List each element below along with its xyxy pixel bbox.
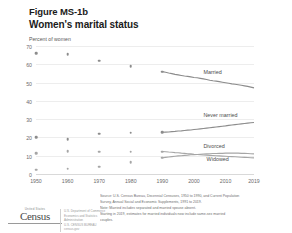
logo-wordmark: Census [8, 211, 62, 222]
logo-agency-text: U.S. Department of Commerce Economics an… [60, 209, 108, 232]
data-point [161, 150, 164, 153]
y-tick-label: 20 [18, 135, 32, 141]
data-point [161, 70, 164, 73]
census-logo: United States Census [8, 207, 62, 224]
data-point [161, 156, 164, 159]
x-tick-label: 2019 [241, 178, 267, 184]
y-tick-label: 40 [18, 98, 32, 104]
data-point [161, 131, 164, 134]
x-tick-label: 2000 [181, 178, 207, 184]
source-note: Source: U.S. Census Bureau, Decennial Ce… [100, 193, 288, 223]
agency-line: Economics and Statistics Administration [64, 214, 108, 223]
series-label: Divorced [203, 143, 224, 149]
data-point [129, 161, 132, 164]
series-lines [36, 46, 254, 174]
series-label: Widowed [207, 156, 229, 162]
data-point [35, 168, 38, 171]
y-tick-label: 0 [18, 172, 32, 178]
x-tick-label: 1950 [23, 178, 49, 184]
series-label: Married [203, 69, 221, 75]
agency-line: U.S. Department of Commerce [64, 209, 108, 214]
series-line [162, 122, 254, 132]
x-tick-label: 1970 [86, 178, 112, 184]
logo-rule [8, 223, 62, 224]
data-point [98, 150, 101, 153]
x-tick-label: 1960 [55, 178, 81, 184]
figure-container: Figure MS-1b Women's marital status Perc… [0, 0, 292, 233]
x-tick-label: 2010 [213, 178, 239, 184]
note-line: couples. [100, 217, 288, 223]
data-point [129, 65, 132, 68]
data-point [35, 52, 38, 55]
data-point [35, 136, 38, 139]
data-point [66, 138, 69, 141]
data-point [35, 152, 38, 155]
data-point [98, 132, 101, 135]
data-point [98, 59, 101, 62]
y-tick-label: 70 [18, 44, 32, 50]
data-point [66, 167, 69, 170]
y-tick-label: 10 [18, 153, 32, 159]
y-tick-label: 50 [18, 80, 32, 86]
plot-area: MarriedNever marriedDivorcedWidowed [36, 46, 254, 174]
agency-line: census.gov [64, 227, 108, 232]
page-title: Women's marital status [29, 19, 138, 30]
data-point [129, 151, 132, 154]
data-point [129, 132, 132, 135]
x-tick-label: 1980 [118, 178, 144, 184]
data-point [66, 150, 69, 153]
y-axis-title: Percent of women [29, 36, 71, 42]
x-tick-label: 1990 [149, 178, 175, 184]
series-label: Never married [203, 112, 237, 118]
y-tick-label: 30 [18, 117, 32, 123]
data-point [98, 166, 101, 169]
y-tick-label: 60 [18, 62, 32, 68]
axis-baseline [36, 174, 254, 175]
figure-number: Figure MS-1b [29, 6, 88, 17]
data-point [66, 53, 69, 56]
